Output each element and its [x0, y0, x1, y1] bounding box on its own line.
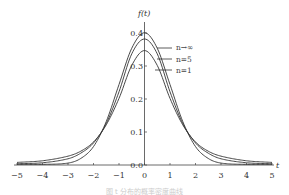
y-tick-label: 0.4: [130, 29, 143, 38]
legend: n→∞ n=5 n=1: [155, 43, 193, 75]
legend-label-n1: n=1: [176, 66, 192, 75]
legend-label-n5: n=5: [176, 55, 192, 64]
x-tick-label: 0: [142, 171, 147, 180]
y-axis-label: f(t): [137, 9, 150, 18]
x-axis-label: t: [276, 161, 280, 170]
x-tick-label: 3: [218, 171, 223, 180]
y-tick-label: 0.3: [130, 62, 143, 71]
x-tick-label: −5: [11, 171, 23, 180]
y-tick-label: 0.0: [130, 161, 143, 170]
axes: [14, 22, 274, 165]
figure-caption: 图 t 分布的概率密度曲线: [0, 186, 289, 195]
y-tick-label: 0.2: [130, 95, 143, 104]
x-tick-label: −2: [88, 171, 100, 180]
x-tick-label: −4: [37, 171, 49, 180]
x-tick-label: 4: [244, 171, 249, 180]
legend-label-normal: n→∞: [176, 43, 193, 52]
x-tick-label: 5: [269, 171, 274, 180]
x-tick-label: −3: [62, 171, 74, 180]
t-distribution-chart: −5−4−3−2−1012345 0.00.10.20.30.4 f(t) t …: [0, 0, 289, 195]
y-tick-label: 0.1: [130, 128, 143, 137]
x-tick-label: −1: [113, 171, 125, 180]
x-tick-label: 1: [167, 171, 172, 180]
x-tick-label: 2: [193, 171, 198, 180]
